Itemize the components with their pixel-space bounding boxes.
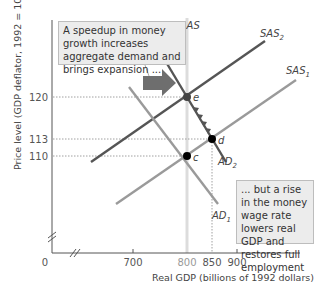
y-tick-110: 110 xyxy=(29,151,48,162)
y-tick-113: 113 xyxy=(29,134,48,145)
ad1-label: AD1 xyxy=(211,210,231,224)
point-c-label: c xyxy=(193,152,199,163)
annotation-money-wage: ... but a rise in the money wage rate lo… xyxy=(236,180,314,244)
y-axis-title: Price level (GDP deflator, 1992 = 100) xyxy=(12,0,23,170)
x-tick-850: 850 xyxy=(202,257,221,268)
annotation-money-growth: A speedup in money growth increases aggr… xyxy=(58,21,186,65)
point-d xyxy=(208,135,216,143)
point-d-label: d xyxy=(218,135,225,146)
x-tick-800: 800 xyxy=(177,257,196,268)
point-e-label: e xyxy=(193,92,199,103)
x-tick-700: 700 xyxy=(123,257,142,268)
sas1-label: SAS1 xyxy=(286,65,310,79)
ad2-label: AD2 xyxy=(217,156,238,170)
point-c xyxy=(183,152,191,160)
y-tick-120: 120 xyxy=(29,92,48,103)
x-tick-0: 0 xyxy=(42,257,48,268)
sas2-label: SAS2 xyxy=(260,28,285,42)
point-e xyxy=(183,93,191,101)
